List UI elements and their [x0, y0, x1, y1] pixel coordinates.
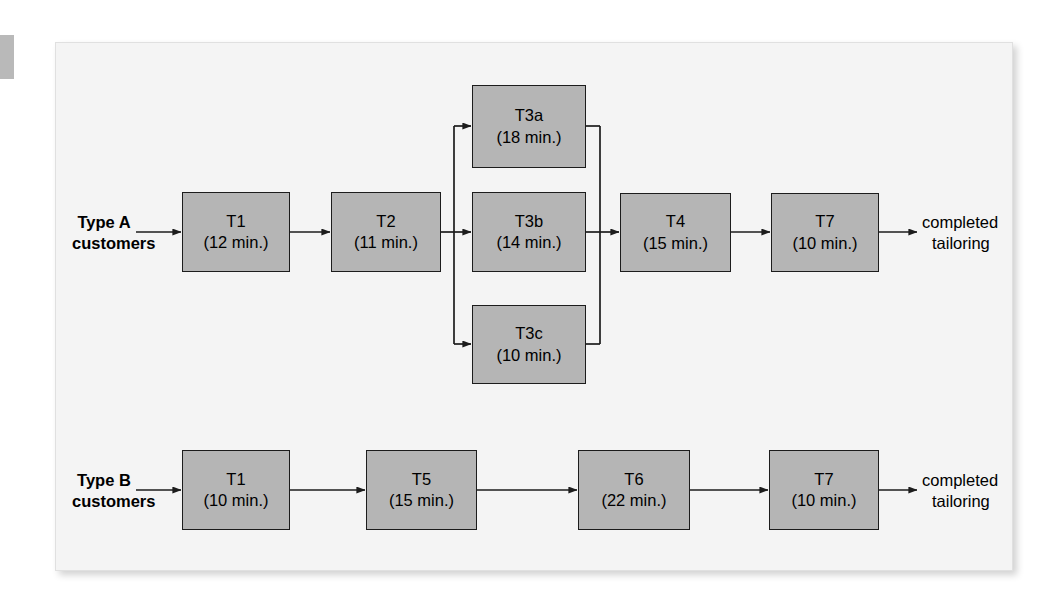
entry-label-type-a-line2: customers	[72, 233, 136, 254]
process-box-a-t3a[interactable]: T3a (18 min.)	[472, 85, 586, 168]
exit-label-type-b-line2: tailoring	[922, 491, 998, 512]
exit-label-type-a-line1: completed	[922, 213, 998, 231]
process-box-b-t7[interactable]: T7 (10 min.)	[769, 450, 879, 530]
process-box-a-t4-time: (15 min.)	[643, 233, 708, 254]
process-box-a-t3c-time: (10 min.)	[496, 345, 561, 366]
process-box-a-t1[interactable]: T1 (12 min.)	[182, 192, 290, 272]
process-box-a-t2-task: T2	[376, 211, 395, 232]
process-box-b-t7-time: (10 min.)	[791, 490, 856, 511]
process-box-a-t3c[interactable]: T3c (10 min.)	[472, 305, 586, 384]
process-box-a-t3b[interactable]: T3b (14 min.)	[472, 192, 586, 272]
process-box-a-t4[interactable]: T4 (15 min.)	[620, 193, 731, 272]
exit-label-type-b: completed tailoring	[922, 470, 998, 512]
entry-label-type-a-line1: Type A	[77, 213, 130, 231]
exit-label-type-b-line1: completed	[922, 471, 998, 489]
process-box-b-t5[interactable]: T5 (15 min.)	[366, 450, 477, 530]
process-box-a-t7-task: T7	[815, 211, 834, 232]
process-box-b-t1-time: (10 min.)	[203, 490, 268, 511]
process-box-a-t3b-time: (14 min.)	[496, 232, 561, 253]
process-box-b-t6[interactable]: T6 (22 min.)	[578, 450, 690, 530]
exit-label-type-a-line2: tailoring	[922, 233, 998, 254]
process-box-b-t1-task: T1	[226, 469, 245, 490]
process-box-b-t5-time: (15 min.)	[389, 490, 454, 511]
page-edge-artifact	[0, 35, 14, 79]
process-box-a-t2-time: (11 min.)	[354, 232, 418, 253]
process-box-b-t5-task: T5	[412, 469, 431, 490]
process-box-b-t6-time: (22 min.)	[601, 490, 666, 511]
process-box-b-t1[interactable]: T1 (10 min.)	[182, 450, 290, 530]
process-box-a-t2[interactable]: T2 (11 min.)	[331, 192, 441, 272]
process-box-a-t1-time: (12 min.)	[203, 232, 268, 253]
process-box-a-t3b-task: T3b	[515, 211, 543, 232]
process-box-a-t1-task: T1	[226, 211, 245, 232]
process-box-b-t6-task: T6	[624, 469, 643, 490]
entry-label-type-a: Type A customers	[72, 212, 136, 254]
process-box-b-t7-task: T7	[814, 469, 833, 490]
process-box-a-t4-task: T4	[666, 211, 685, 232]
entry-label-type-b: Type B customers	[72, 470, 136, 512]
exit-label-type-a: completed tailoring	[922, 212, 998, 254]
process-box-a-t3a-task: T3a	[515, 105, 543, 126]
entry-label-type-b-line1: Type B	[77, 471, 131, 489]
process-box-a-t7[interactable]: T7 (10 min.)	[771, 193, 879, 272]
process-box-a-t7-time: (10 min.)	[792, 233, 857, 254]
process-box-a-t3a-time: (18 min.)	[496, 127, 561, 148]
process-box-a-t3c-task: T3c	[515, 323, 543, 344]
entry-label-type-b-line2: customers	[72, 491, 136, 512]
